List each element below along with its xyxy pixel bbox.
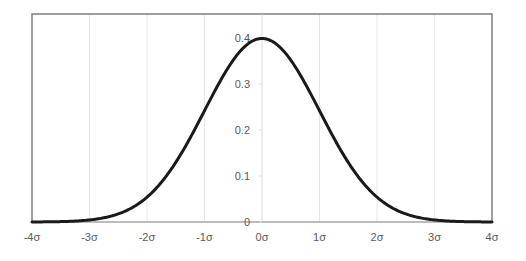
x-tick-label: -3σ (81, 231, 98, 243)
normal-distribution-chart: 00.10.20.30.4 -4σ-3σ-2σ-1σ0σ1σ2σ3σ4σ (0, 0, 526, 261)
y-tick-label: 0 (244, 216, 250, 228)
x-tick-label: 1σ (313, 231, 326, 243)
x-tick-label: -4σ (24, 231, 41, 243)
y-tick-label: 0.4 (235, 32, 250, 44)
x-tick-label: 3σ (428, 231, 441, 243)
x-tick-label: -2σ (139, 231, 156, 243)
x-tick-label: 4σ (486, 231, 499, 243)
y-axis-ticks: 00.10.20.30.4 (235, 32, 262, 228)
y-tick-label: 0.1 (235, 170, 250, 182)
y-tick-label: 0.3 (235, 78, 250, 90)
x-tick-label: -1σ (196, 231, 213, 243)
x-axis-ticks: -4σ-3σ-2σ-1σ0σ1σ2σ3σ4σ (24, 231, 499, 243)
x-tick-label: 0σ (256, 231, 269, 243)
y-tick-label: 0.2 (235, 124, 250, 136)
x-tick-label: 2σ (371, 231, 384, 243)
